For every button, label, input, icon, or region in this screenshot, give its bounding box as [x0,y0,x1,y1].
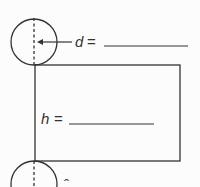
height-label: h [41,110,49,127]
cylinder-net-diagram: ˆ d = h = [0,0,200,187]
diameter-label: d [75,33,84,50]
height-equals: = [54,110,63,127]
partial-label: ˆ [64,176,69,187]
diameter-equals: = [87,33,96,50]
arrowhead-icon [37,39,43,45]
